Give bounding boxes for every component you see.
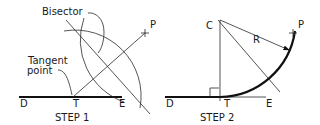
step-1-panel: Bisector Tangent point P D T E STEP 1	[19, 6, 156, 123]
step-1-caption: STEP 1	[55, 112, 89, 123]
point-e-label: E	[119, 98, 125, 109]
point-p2-marker	[289, 29, 297, 37]
tangent-label-line2: point	[27, 65, 53, 76]
step-2-panel: C R P D T E STEP 2	[165, 19, 304, 123]
right-angle-marker	[210, 88, 219, 97]
tangent-arc-construction-diagram: Bisector Tangent point P D T E STEP 1 C …	[0, 0, 320, 125]
point-c-label: C	[206, 20, 213, 31]
point-d2-label: D	[166, 98, 174, 109]
radius-r-label: R	[253, 34, 260, 45]
point-p-label: P	[150, 19, 156, 30]
point-p2-label: P	[298, 19, 304, 30]
step-2-caption: STEP 2	[200, 112, 234, 123]
tangent-point-leader	[58, 70, 72, 95]
point-t-label: T	[72, 98, 80, 109]
line-c-bisector	[218, 20, 280, 92]
line-tp	[73, 33, 145, 97]
bisector-label: Bisector	[42, 6, 84, 17]
point-t2-label: T	[223, 98, 231, 109]
point-e2-label: E	[266, 98, 272, 109]
point-d-label: D	[20, 98, 28, 109]
